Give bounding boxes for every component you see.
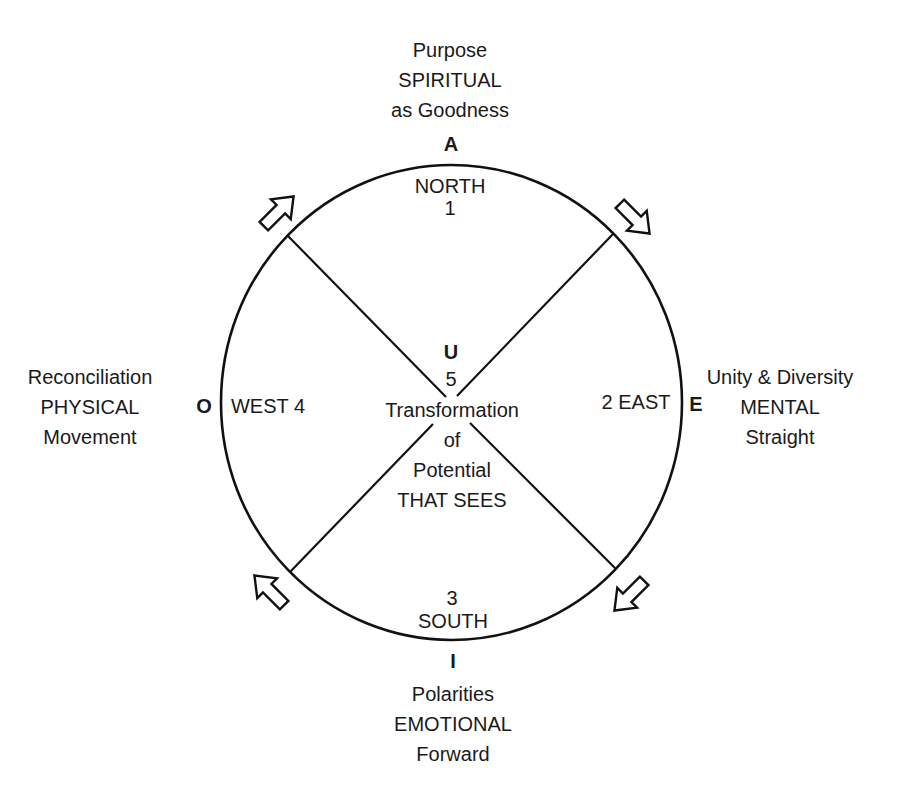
center-line-1: Transformation — [385, 395, 519, 425]
center-line-2: of — [385, 425, 519, 455]
east-outer-label: Unity & Diversity MENTAL Straight — [707, 362, 854, 452]
south-vowel: I — [450, 649, 456, 673]
south-quality: Polarities — [394, 679, 512, 709]
center-label: Transformation of Potential THAT SEES — [385, 395, 519, 515]
south-outer-label: Polarities EMOTIONAL Forward — [394, 679, 512, 769]
north-direction: NORTH — [415, 174, 486, 198]
west-descriptor: Movement — [28, 422, 153, 452]
center-vowel: U — [444, 340, 458, 364]
east-descriptor: Straight — [707, 422, 854, 452]
diagonal-nw — [287, 235, 446, 397]
south-direction: SOUTH — [418, 609, 488, 633]
west-direction: WEST 4 — [231, 394, 305, 418]
north-outer-label: Purpose SPIRITUAL as Goodness — [391, 35, 509, 125]
west-vowel: O — [196, 394, 212, 418]
west-quality: Reconciliation — [28, 362, 153, 392]
north-descriptor: as Goodness — [391, 95, 509, 125]
center-number: 5 — [445, 367, 456, 391]
north-quality: Purpose — [391, 35, 509, 65]
east-aspect: MENTAL — [707, 392, 854, 422]
west-outer-label: Reconciliation PHYSICAL Movement — [28, 362, 153, 452]
west-aspect: PHYSICAL — [28, 392, 153, 422]
north-aspect: SPIRITUAL — [391, 65, 509, 95]
arrow-lower-right-icon — [605, 571, 654, 620]
north-vowel: A — [444, 132, 458, 156]
diagonal-ne — [457, 234, 613, 396]
arrow-lower-left-icon — [245, 566, 294, 615]
south-descriptor: Forward — [394, 739, 512, 769]
east-vowel: E — [689, 392, 702, 416]
south-aspect: EMOTIONAL — [394, 709, 512, 739]
east-direction: 2 EAST — [602, 390, 671, 414]
center-line-4: THAT SEES — [385, 485, 519, 515]
south-number: 3 — [446, 586, 457, 610]
east-quality: Unity & Diversity — [707, 362, 854, 392]
center-line-3: Potential — [385, 455, 519, 485]
north-number: 1 — [444, 196, 455, 220]
